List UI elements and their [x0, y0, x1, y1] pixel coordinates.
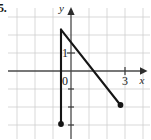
- x-tick-label-3: 3: [122, 74, 128, 88]
- graph-curve: [61, 30, 120, 124]
- diagonal-segment: [61, 30, 120, 105]
- y-tick-label-1: 1: [62, 46, 68, 60]
- figure-container: 5.: [0, 0, 151, 140]
- y-axis-arrow: [67, 7, 74, 15]
- axes: [8, 9, 140, 139]
- bottom-right-endpoint-dot: [118, 102, 124, 108]
- coordinate-graph: y x 1 0 3: [0, 0, 151, 140]
- origin-label: 0: [62, 74, 68, 88]
- grid-lines: [8, 8, 150, 139]
- problem-number: 5.: [0, 1, 6, 16]
- x-axis-label: x: [139, 74, 145, 86]
- bottom-left-endpoint-dot: [58, 121, 64, 127]
- y-axis-label: y: [58, 2, 64, 14]
